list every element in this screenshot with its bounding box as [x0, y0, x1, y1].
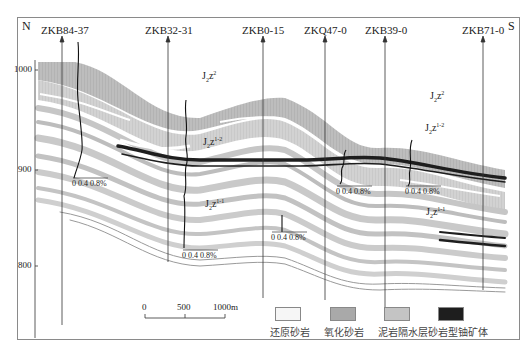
legend-label-reduced-sandstone: 还原砂岩	[270, 324, 310, 339]
legend-swatch-oxidized-sandstone	[330, 307, 356, 321]
legend-label-oxidized-sandstone: 氧化砂岩	[324, 324, 364, 339]
legend-swatch-ore-body	[438, 307, 464, 321]
well-label-zkb71-0: ZKB71-0	[462, 24, 504, 36]
south-label: S	[508, 19, 515, 34]
well-label-zkb39-0: ZKB39-0	[365, 24, 407, 36]
scale-tick-0: 0	[142, 302, 147, 312]
unit-label-j2z1-1: J2z1-1	[205, 198, 224, 211]
grade-scale-label: 0 0.4 0.8%	[271, 233, 306, 242]
grade-scale-label: 0 0.4 0.8%	[72, 179, 107, 188]
cross-section-canvas	[0, 0, 531, 356]
well-label-zkb84-37: ZKB84-37	[41, 24, 89, 36]
unit-label-j2z1-1-east: J2z1-1	[426, 206, 445, 219]
unit-label-j2z1-2-east: J2z1-2	[425, 122, 444, 135]
elev-tick-1000: 1000	[14, 64, 32, 74]
well-label-zkb0-15: ZKB0-15	[242, 24, 284, 36]
legend-swatch-reduced-sandstone	[275, 307, 301, 321]
grade-scale-label: 0 0.4 0.8%	[182, 251, 217, 260]
well-label-zkb32-31: ZKB32-31	[145, 24, 193, 36]
unit-label-j2z2-east: J2z2	[430, 90, 444, 103]
scale-tick-1000m: 1000m	[213, 302, 238, 312]
well-label-zkq47-0: ZKQ47-0	[304, 24, 347, 36]
grade-scale-label: 0 0.4 0.8%	[336, 187, 371, 196]
legend-label-mudstone: 泥岩隔水层	[378, 324, 428, 339]
north-label: N	[22, 19, 31, 34]
legend-label-ore-body: 砂岩型铀矿体	[428, 324, 488, 339]
legend-swatch-mudstone	[384, 307, 410, 321]
grade-scale-label: 0 0.4 0.8%	[405, 187, 440, 196]
elev-tick-800: 800	[18, 260, 32, 270]
scale-tick-500: 500	[177, 302, 191, 312]
elev-tick-900: 900	[18, 164, 32, 174]
unit-label-j2z1-2: J2z1-2	[203, 136, 222, 149]
scale-bar	[145, 314, 225, 318]
unit-label-j2z2: J2z2	[202, 70, 216, 83]
